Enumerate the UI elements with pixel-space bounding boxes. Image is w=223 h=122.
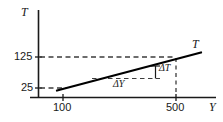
y-tick-label-125: 125 — [14, 51, 32, 62]
series-label-T: T — [192, 38, 199, 50]
x-tick-label-100: 100 — [53, 102, 71, 113]
y-axis-label: T — [21, 6, 28, 18]
delta-t-label: ΔT — [159, 63, 170, 73]
delta-y-label: ΔY — [113, 79, 124, 89]
x-tick-label-500: 500 — [166, 102, 184, 113]
x-axis-label: Y — [209, 101, 216, 113]
chart-plot-area — [0, 0, 223, 122]
series-line-T — [57, 53, 201, 91]
y-tick-label-25: 25 — [21, 82, 33, 93]
temperature-income-line-chart: T Y 125 25 100 500 ΔT ΔY T — [0, 0, 223, 122]
